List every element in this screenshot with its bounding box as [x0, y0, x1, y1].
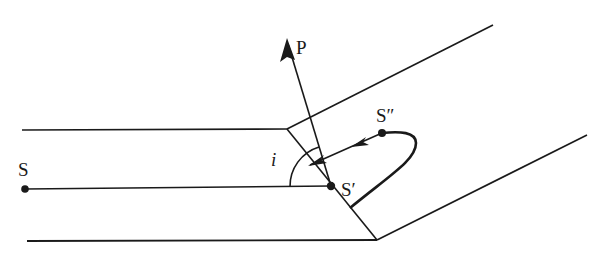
bottom-left-boundary [27, 240, 377, 241]
label-angle-i: i [271, 149, 276, 170]
label-p: P [296, 37, 307, 58]
angle-arc-i [290, 147, 319, 187]
p-arrowhead-icon [280, 38, 295, 62]
top-left-boundary [22, 129, 287, 130]
label-s-prime: S′ [341, 179, 356, 200]
point-s-double-prime [378, 129, 386, 137]
point-s-prime [327, 182, 335, 190]
mid-arrowhead-icon [351, 137, 369, 147]
point-s [21, 185, 29, 193]
diagram-canvas: S S′ S″ P i [0, 0, 600, 261]
p-arrow [288, 44, 331, 186]
label-s: S [18, 159, 29, 180]
ray-s-to-s-prime [25, 186, 331, 189]
bottom-right-boundary [377, 135, 587, 240]
label-s-double-prime: S″ [376, 105, 394, 126]
